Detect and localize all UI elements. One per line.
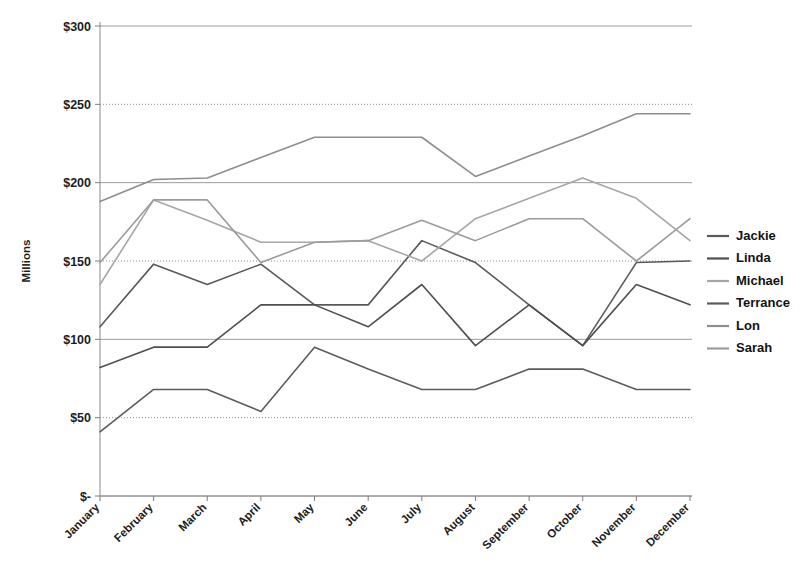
y-tick-label: $- (80, 490, 91, 504)
legend-label-jackie: Jackie (736, 228, 776, 243)
y-axis-ticks (95, 26, 100, 496)
x-tick-label: September (480, 501, 531, 552)
y-axis-title-text: Millions (20, 240, 32, 283)
series-line-lon (100, 114, 690, 202)
y-tick-label: $150 (63, 255, 91, 269)
y-tick-label: $200 (63, 176, 91, 190)
series-line-sarah (100, 200, 690, 263)
line-chart: $-$50$100$150$200$250$300 JanuaryFebruar… (0, 0, 812, 566)
y-tick-label: $300 (63, 20, 91, 34)
x-tick-label: January (62, 501, 102, 541)
x-tick-label: February (112, 501, 156, 545)
legend-label-michael: Michael (736, 273, 784, 288)
x-tick-label: October (544, 501, 584, 541)
x-tick-label: August (440, 501, 477, 538)
x-tick-label: December (644, 501, 692, 549)
x-tick-label: May (292, 501, 317, 526)
axes-group (100, 22, 692, 496)
x-tick-label: July (398, 501, 423, 526)
legend-label-sarah: Sarah (736, 340, 772, 355)
legend: JackieLindaMichaelTerranceLonSarah (707, 228, 790, 356)
y-axis-title: Millions (20, 240, 32, 283)
chart-canvas: $-$50$100$150$200$250$300 JanuaryFebruar… (0, 0, 812, 566)
y-tick-label: $100 (63, 333, 91, 347)
x-axis-labels: JanuaryFebruaryMarchAprilMayJuneJulyAugu… (62, 501, 692, 552)
legend-label-lon: Lon (736, 318, 760, 333)
y-axis-labels: $-$50$100$150$200$250$300 (63, 20, 91, 504)
y-tick-label: $50 (70, 411, 91, 425)
gridlines-group (100, 26, 692, 496)
x-axis-ticks (100, 496, 690, 501)
series-group (100, 114, 690, 432)
series-line-terrance (100, 347, 690, 432)
series-line-linda (100, 285, 690, 368)
legend-label-terrance: Terrance (736, 295, 790, 310)
x-tick-label: April (235, 501, 262, 528)
series-line-jackie (100, 241, 690, 346)
legend-label-linda: Linda (736, 250, 771, 265)
y-tick-label: $250 (63, 98, 91, 112)
x-tick-label: June (342, 501, 369, 528)
x-tick-label: March (176, 501, 208, 533)
x-tick-label: November (590, 501, 639, 550)
